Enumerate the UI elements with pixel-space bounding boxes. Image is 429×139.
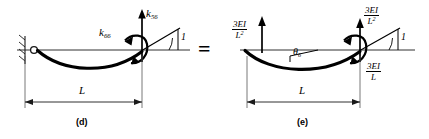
panel-d-force-label: k56 — [146, 8, 158, 21]
panel-d-graphics — [17, 9, 190, 108]
equals-sign: = — [198, 38, 211, 60]
panel-d-support-hatching — [19, 35, 25, 61]
panel-d-dim-arrow-left — [25, 99, 33, 105]
panel-d-rotation-arc — [169, 38, 173, 50]
panel-e-dimension-label: L — [299, 85, 305, 96]
panel-e-left-force-arrow — [258, 16, 266, 53]
panel-e-caption: (e) — [297, 118, 308, 127]
panel-d-rotation-ray — [141, 28, 180, 51]
panel-d-dimension-label: L — [79, 85, 85, 96]
panel-e-rotation-arc — [389, 38, 393, 50]
panel-d-dim-arrow-right — [134, 99, 142, 105]
panel-e-right-moment-label: 3EI L — [366, 62, 381, 83]
panel-e-rotation-label: θ6 — [293, 47, 301, 58]
panel-d-moment-label: k66 — [99, 27, 111, 40]
panel-d-caption: (d) — [76, 118, 88, 127]
panel-e-graphics — [240, 16, 415, 108]
panel-e-left-shear-label: 3EI L2 — [232, 20, 247, 41]
panel-e-dim-arrow-right — [352, 99, 360, 105]
panel-e-right-shear-label: 3EI L2 — [364, 6, 379, 27]
panel-e-unit-rotation-label: 1 — [401, 32, 406, 42]
panel-d-unit-rotation-label: 1 — [181, 32, 186, 42]
panel-e-dim-arrow-left — [247, 99, 255, 105]
panel-d-deflected-beam — [38, 51, 143, 69]
panel-e-right-force-arrow — [356, 18, 364, 62]
